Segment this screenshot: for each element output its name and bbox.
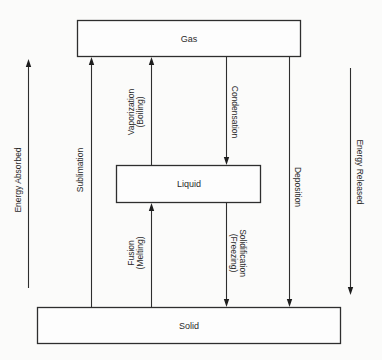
arrow-up-icon bbox=[26, 59, 31, 67]
solid-label: Solid bbox=[179, 321, 199, 331]
gas-label: Gas bbox=[181, 34, 198, 44]
arrow-down-icon bbox=[287, 299, 292, 307]
arrow-down-icon bbox=[348, 287, 353, 295]
energy-released-arrow: Energy Released bbox=[348, 68, 365, 295]
deposition-label: Deposition bbox=[293, 167, 303, 207]
condensation-label: Condensation bbox=[230, 86, 240, 139]
solidification-sublabel: (Freezing) bbox=[229, 234, 239, 273]
arrow-down-icon bbox=[224, 157, 229, 165]
gas-box: Gas bbox=[78, 21, 301, 57]
vaporization-arrow: Vaporization (Boiling) bbox=[126, 57, 155, 165]
fusion-label: Fusion bbox=[126, 240, 136, 266]
solid-box: Solid bbox=[38, 308, 341, 344]
energy-released-label: Energy Released bbox=[355, 139, 365, 204]
arrow-down-icon bbox=[224, 299, 229, 307]
arrow-up-icon bbox=[149, 203, 154, 211]
vaporization-label: Vaporization bbox=[126, 88, 136, 135]
fusion-sublabel: (Melting) bbox=[135, 236, 145, 269]
condensation-arrow: Condensation bbox=[224, 56, 240, 165]
deposition-arrow: Deposition bbox=[287, 56, 303, 307]
fusion-arrow: Fusion (Melting) bbox=[126, 203, 155, 307]
liquid-box: Liquid bbox=[117, 166, 261, 203]
arrow-up-icon bbox=[149, 57, 154, 65]
liquid-label: Liquid bbox=[177, 179, 201, 189]
energy-absorbed-arrow: Energy Absorbed bbox=[13, 59, 31, 288]
energy-absorbed-label: Energy Absorbed bbox=[13, 147, 23, 212]
arrow-up-icon bbox=[89, 57, 94, 65]
sublimation-arrow: Sublimation bbox=[75, 57, 94, 307]
sublimation-label: Sublimation bbox=[75, 148, 85, 193]
solidification-arrow: Solidification (Freezing) bbox=[224, 202, 248, 307]
vaporization-sublabel: (Boiling) bbox=[135, 96, 145, 127]
phase-change-diagram: Gas Liquid Solid Energy Absorbed Sublima… bbox=[0, 0, 382, 360]
